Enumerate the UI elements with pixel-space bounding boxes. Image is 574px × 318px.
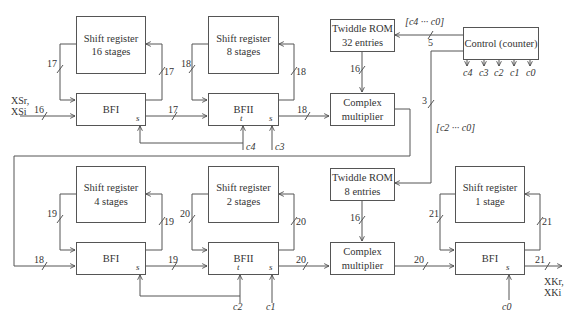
bfi1-out-width: 17 xyxy=(168,104,178,115)
output-label-xkr: XKr, xyxy=(544,276,564,287)
bfi3-s-port: s xyxy=(136,262,140,272)
bfii4-s-port: s xyxy=(269,262,273,272)
sr8-out-width: 18 xyxy=(181,58,191,69)
sr8-in-width: 18 xyxy=(296,66,306,77)
control-c2-label: c2 xyxy=(233,301,242,312)
sr16-in-width: 17 xyxy=(164,66,174,77)
control-c4-label: c4 xyxy=(246,141,255,152)
control-c1-label: c1 xyxy=(266,301,275,312)
complex-multiplier-2: Complex multiplier xyxy=(330,242,395,275)
bfi5-s-port: s xyxy=(506,262,510,272)
shift-register-4: Shift register 4 stages xyxy=(76,166,146,223)
bfi3-out-width: 19 xyxy=(168,254,178,265)
bfi-block-5: BFI xyxy=(455,242,525,275)
stage3-in-width: 18 xyxy=(34,254,44,265)
output-width: 21 xyxy=(535,254,545,265)
bfii2-t-port: t xyxy=(240,113,243,123)
bfii2-s-port: s xyxy=(269,113,273,123)
input-label-xsr: XSr, xyxy=(11,95,29,106)
sr1-out-width: 21 xyxy=(429,208,439,219)
input-width: 16 xyxy=(34,104,44,115)
twiddle-rom-32: Twiddle ROM 32 entries xyxy=(330,19,395,52)
control-c3-label: c3 xyxy=(275,141,284,152)
shift-register-8: Shift register 8 stages xyxy=(208,16,279,74)
shift-register-16: Shift register 16 stages xyxy=(76,16,146,74)
complex-multiplier-1: Complex multiplier xyxy=(330,93,395,126)
twiddle32-addr-width: 5 xyxy=(428,37,433,48)
sr2-out-width: 20 xyxy=(180,208,190,219)
control-counter: Control (counter) xyxy=(463,27,539,60)
shift-register-1: Shift register 1 stage xyxy=(455,166,525,223)
sr16-out-width: 17 xyxy=(47,58,57,69)
control-bus-width: 3 xyxy=(422,95,427,106)
output-label-xki: XKi xyxy=(544,287,561,298)
sr4-out-width: 19 xyxy=(47,208,57,219)
sr4-in-width: 19 xyxy=(164,216,174,227)
sr16-to-bfi-wire xyxy=(60,44,76,100)
twiddle32-addr-label: [c4 ··· c0] xyxy=(405,16,444,27)
control-out-c4: c4 xyxy=(463,67,472,78)
bfii2-out-width: 18 xyxy=(297,104,307,115)
twiddle32-out-width: 16 xyxy=(350,63,360,74)
sr1-in-width: 21 xyxy=(542,216,552,227)
sr2-in-width: 20 xyxy=(296,216,306,227)
twiddle8-out-width: 16 xyxy=(350,212,360,223)
shift-register-2: Shift register 2 stages xyxy=(208,166,279,223)
control-out-c0: c0 xyxy=(526,67,535,78)
control-out-c2: c2 xyxy=(494,67,503,78)
bfi-to-sr16-wire xyxy=(145,44,162,100)
bfii4-t-port: t xyxy=(237,262,240,272)
twiddle-rom-8: Twiddle ROM 8 entries xyxy=(330,168,395,201)
control-out-c3: c3 xyxy=(479,67,488,78)
control-out-c1: c1 xyxy=(510,67,519,78)
input-label-xsi: XSi xyxy=(11,106,27,117)
bfi1-s-port: s xyxy=(136,113,140,123)
bfii4-out-width: 20 xyxy=(296,254,306,265)
mult2-out-width: 20 xyxy=(414,254,424,265)
control-c0-label: c0 xyxy=(502,301,511,312)
control-bus-label: [c2 ··· c0] xyxy=(436,122,475,133)
